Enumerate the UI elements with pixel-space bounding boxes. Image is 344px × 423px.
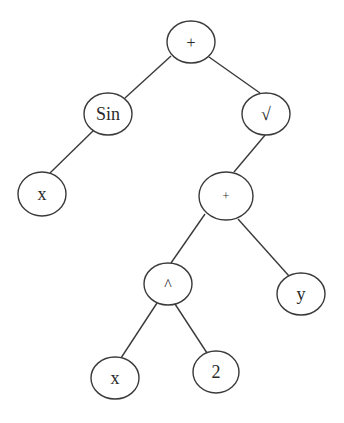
node-label: x [111,368,120,388]
node-label: ^ [164,276,172,293]
edge-inner_plus-to-pow [171,214,205,263]
edge-pow-to-two [175,304,207,353]
edge-root_plus-to-sin [125,56,171,98]
node-sin: Sin [84,93,132,135]
edge-sqrt-to-inner_plus [234,134,266,172]
node-root-plus: + [167,21,215,63]
node-label: y [297,284,306,304]
node-pow: ^ [144,263,192,305]
edge-inner_plus-to-y [238,219,289,276]
edge-root_plus-to-sqrt [209,57,260,93]
node-inner-plus: + [199,172,253,220]
node-label: + [223,189,230,203]
node-label: Sin [96,104,120,124]
expression-tree-diagram: +Sin√x+^yx2 [0,0,344,423]
node-label: √ [261,104,271,124]
node-x-left: x [18,172,66,216]
edge-pow-to-x_bottom [121,303,157,358]
node-label: + [186,34,195,51]
edge-sin-to-x_left [50,130,94,173]
tree-nodes: +Sin√x+^yx2 [18,21,325,399]
node-two: 2 [193,351,239,393]
node-y: y [277,273,325,315]
node-label: 2 [212,362,221,382]
node-x-bottom: x [91,357,139,399]
node-label: x [38,184,47,204]
node-sqrt: √ [242,93,290,135]
